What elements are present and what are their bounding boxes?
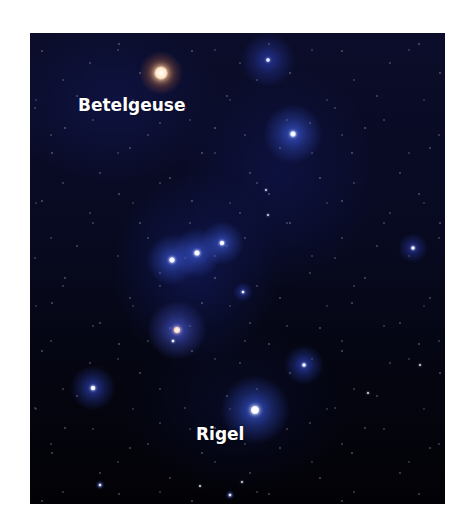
orion-star-field-photo: Betelgeuse Rigel: [30, 33, 445, 504]
star-orion-nebula: [174, 327, 181, 334]
star-star-f: [241, 481, 243, 483]
star-eta-orionis: [302, 363, 306, 367]
star-star-c: [99, 484, 102, 487]
star-east-star: [411, 246, 415, 250]
star-star-a: [265, 189, 267, 191]
star-star-e: [199, 485, 201, 487]
star-alnitak: [169, 257, 175, 263]
star-star-b: [267, 214, 269, 216]
star-mintaka: [220, 241, 225, 246]
star-meissa-cluster: [266, 58, 270, 62]
label-rigel: Rigel: [196, 424, 244, 444]
star-saiph: [91, 386, 96, 391]
star-star-h: [367, 392, 369, 394]
star-star-g: [419, 364, 421, 366]
star-sword-star: [242, 291, 245, 294]
label-betelgeuse: Betelgeuse: [78, 95, 185, 115]
star-bellatrix: [290, 131, 296, 137]
star-alnilam: [194, 250, 200, 256]
star-nebula-companion: [172, 340, 175, 343]
star-star-d: [229, 494, 232, 497]
star-betelgeuse: [154, 66, 168, 80]
star-rigel: [251, 406, 260, 415]
